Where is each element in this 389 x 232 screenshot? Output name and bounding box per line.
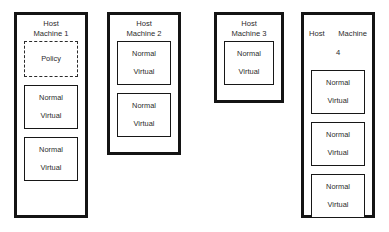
virtual-node-line2: Virtual xyxy=(328,200,349,209)
host-machine-3-node-stack: Normal Virtual xyxy=(217,41,281,100)
host-machine-2: Host Machine 2 Normal Virtual Normal Vir… xyxy=(107,12,181,155)
host-machine-4-title-line2: 4 xyxy=(309,48,367,58)
host-machine-4-title: Host Machine 4 xyxy=(304,15,372,70)
virtual-node: Normal Virtual xyxy=(311,122,365,166)
virtual-node: Normal Virtual xyxy=(24,137,78,181)
virtual-node: Normal Virtual xyxy=(224,41,274,85)
host-machine-2-node-stack: Normal Virtual Normal Virtual xyxy=(110,41,178,152)
virtual-node-line1: Normal xyxy=(326,78,350,87)
policy-node: Policy xyxy=(24,41,78,77)
virtual-node-line1: Normal xyxy=(39,145,63,154)
virtual-node-line1: Normal xyxy=(237,49,261,58)
virtual-node: Normal Virtual xyxy=(311,174,365,218)
host-machine-4-node-stack: Normal Virtual Normal Virtual Normal Vir… xyxy=(304,70,372,224)
host-machine-3-title: Host Machine 3 xyxy=(217,15,281,41)
host-machine-1-title: Host Machine 1 xyxy=(17,15,85,41)
host-machine-1: Host Machine 1 Policy Normal Virtual Nor… xyxy=(14,12,88,218)
virtual-node-line2: Virtual xyxy=(328,148,349,157)
host-machine-4-title-line1: Host Machine xyxy=(309,29,367,39)
virtual-node-line2: Virtual xyxy=(41,163,62,172)
virtual-node-line1: Normal xyxy=(132,49,156,58)
host-machines-diagram: Host Machine 1 Policy Normal Virtual Nor… xyxy=(0,0,389,232)
virtual-node-line1: Normal xyxy=(39,93,63,102)
virtual-node: Normal Virtual xyxy=(117,41,171,85)
virtual-node-line2: Virtual xyxy=(134,119,155,128)
host-machine-2-title: Host Machine 2 xyxy=(110,15,178,41)
policy-node-label: Policy xyxy=(41,54,61,63)
host-machine-1-node-stack: Policy Normal Virtual Normal Virtual xyxy=(17,41,85,215)
virtual-node: Normal Virtual xyxy=(311,70,365,114)
virtual-node-line2: Virtual xyxy=(134,67,155,76)
virtual-node-line1: Normal xyxy=(132,101,156,110)
virtual-node: Normal Virtual xyxy=(117,93,171,137)
host-machine-3: Host Machine 3 Normal Virtual xyxy=(214,12,284,103)
virtual-node: Normal Virtual xyxy=(24,85,78,129)
virtual-node-line2: Virtual xyxy=(328,96,349,105)
virtual-node-line2: Virtual xyxy=(41,111,62,120)
virtual-node-line1: Normal xyxy=(326,182,350,191)
virtual-node-line1: Normal xyxy=(326,130,350,139)
host-machine-4: Host Machine 4 Normal Virtual Normal Vir… xyxy=(301,12,375,218)
virtual-node-line2: Virtual xyxy=(239,67,260,76)
